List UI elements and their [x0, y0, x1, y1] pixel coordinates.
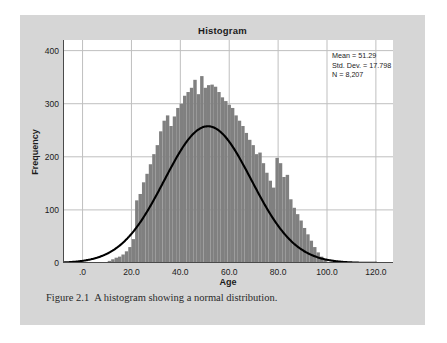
x-tick-label: .0: [79, 267, 86, 277]
histogram-chart: Histogram Frequency 0100200300400 .020.0…: [20, 15, 425, 283]
y-tick-label: 100: [45, 205, 59, 215]
stat-mean: Mean = 51.29: [332, 51, 391, 61]
x-tick-label: 40.0: [172, 267, 189, 277]
y-axis-label: Frequency: [28, 40, 42, 263]
x-tick-label: 80.0: [270, 267, 287, 277]
y-tick-label: 300: [45, 99, 59, 109]
x-axis-label: Age: [63, 277, 393, 287]
x-tick-label: 100.0: [316, 267, 337, 277]
x-tick-label: 20.0: [123, 267, 140, 277]
x-axis-label-text: Age: [219, 277, 236, 287]
figure-caption-number: Figure 2.1: [46, 292, 89, 303]
figure-caption-text: A histogram showing a normal distributio…: [94, 292, 277, 303]
y-axis-label-text: Frequency: [30, 129, 40, 175]
y-tick-label: 200: [45, 152, 59, 162]
x-tick-label: 60.0: [221, 267, 238, 277]
figure-panel: Histogram Frequency 0100200300400 .020.0…: [20, 15, 425, 325]
y-tick-label: 0: [54, 258, 59, 268]
stat-stddev: Std. Dev. = 17.798: [332, 61, 391, 71]
chart-title: Histogram: [20, 25, 425, 36]
x-tick-label: 120.0: [365, 267, 386, 277]
y-tick-label: 400: [45, 46, 59, 56]
statistics-annotation: Mean = 51.29 Std. Dev. = 17.798 N = 8,20…: [332, 51, 391, 80]
figure-caption: Figure 2.1A histogram showing a normal d…: [46, 292, 406, 303]
stat-n: N = 8,207: [332, 70, 391, 80]
